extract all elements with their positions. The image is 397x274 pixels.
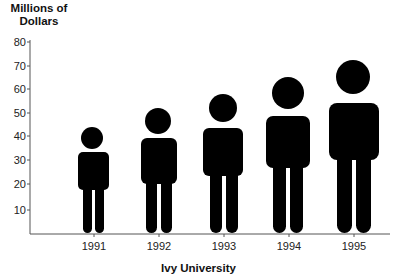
person-icon-1994 bbox=[266, 77, 310, 233]
person-icon-1991 bbox=[78, 127, 109, 233]
person-icon-1993 bbox=[203, 94, 243, 233]
person-icon-1992 bbox=[141, 108, 177, 233]
x-tick-label: 1994 bbox=[269, 240, 309, 252]
x-tick-label: 1995 bbox=[334, 240, 374, 252]
chart-title: Ivy University bbox=[0, 262, 397, 274]
x-tick-label: 1992 bbox=[139, 240, 179, 252]
x-tick-label: 1993 bbox=[204, 240, 244, 252]
x-tick-label: 1991 bbox=[74, 240, 114, 252]
person-icon-1995 bbox=[329, 60, 379, 233]
